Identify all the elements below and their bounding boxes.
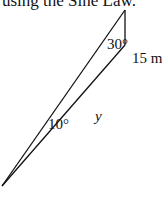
angle-bottom-label: 10° — [48, 116, 69, 133]
angle-top-label: 30° — [107, 36, 128, 53]
side-vertical-label: 15 m — [132, 50, 162, 67]
side-y-label: y — [95, 108, 102, 125]
triangle-diagram — [0, 0, 162, 200]
